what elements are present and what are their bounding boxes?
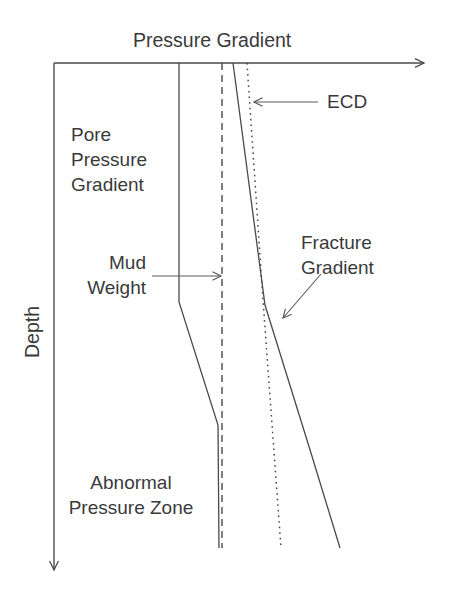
pressure-gradient-diagram: Pressure Gradient Depth Pore Pressure Gr… — [0, 0, 449, 597]
y-axis-label: Depth — [20, 297, 44, 367]
pore-pressure-gradient-label: Pore Pressure Gradient — [71, 122, 147, 197]
mud-weight-label: Mud Weight — [72, 250, 146, 300]
ecd-curve — [247, 63, 281, 548]
page-title: Pressure Gradient — [133, 28, 291, 52]
fracture-gradient-curve — [233, 63, 340, 548]
ecd-label: ECD — [327, 90, 367, 114]
abnormal-pressure-zone-label: Abnormal Pressure Zone — [56, 470, 206, 520]
fracture-gradient-leader-arrow — [283, 274, 321, 318]
fracture-gradient-label: Fracture Gradient — [301, 230, 374, 280]
